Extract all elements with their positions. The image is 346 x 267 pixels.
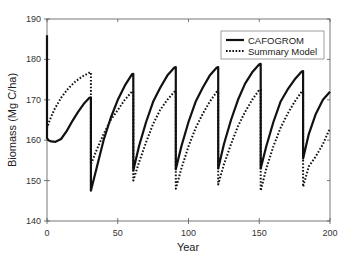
- y-tick-label: 190: [26, 14, 41, 24]
- x-axis-title: Year: [177, 241, 200, 253]
- y-tick-label: 180: [26, 54, 41, 64]
- x-tick-label: 0: [44, 228, 49, 238]
- x-tick-label: 150: [252, 228, 267, 238]
- legend-label-cafogrom: CAFOGROM: [248, 35, 304, 46]
- y-tick-label: 140: [26, 216, 41, 226]
- y-tick-label: 160: [26, 135, 41, 145]
- y-tick-label: 170: [26, 95, 41, 105]
- x-tick-label: 50: [113, 228, 123, 238]
- x-tick-label: 200: [322, 228, 337, 238]
- legend-label-summary-model: Summary Model: [248, 46, 317, 57]
- x-tick-label: 100: [181, 228, 196, 238]
- y-tick-label: 150: [26, 176, 41, 186]
- y-axis-title: Biomass (Mg C/ha): [6, 73, 18, 167]
- legend: CAFOGROM Summary Model: [221, 31, 324, 59]
- biomass-line-chart: 050100150200 140150160170180190 Year Bio…: [0, 0, 346, 267]
